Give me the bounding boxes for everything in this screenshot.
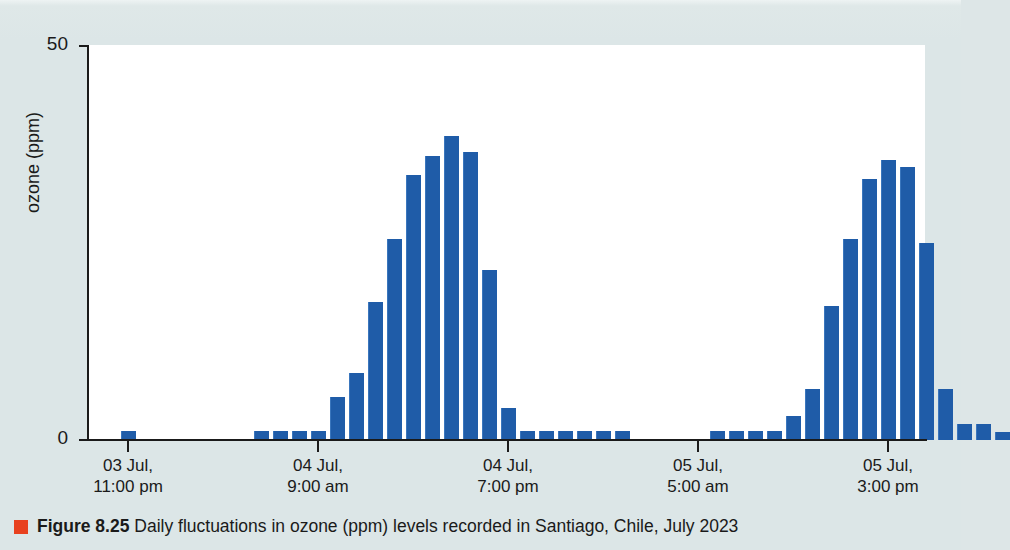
- x-axis-tick-label: 04 Jul,9:00 am: [248, 455, 388, 498]
- y-tick-50: [79, 45, 88, 47]
- bar: [786, 416, 801, 440]
- bar: [919, 243, 934, 441]
- caption-text: Figure 8.25 Daily fluctuations in ozone …: [37, 516, 738, 536]
- x-axis-tick: [127, 441, 129, 452]
- bar: [444, 136, 459, 440]
- bar: [805, 389, 820, 440]
- bar: [976, 424, 991, 440]
- x-axis-tick-label: 05 Jul,5:00 am: [628, 455, 768, 498]
- x-axis-tick-label-time: 3:00 pm: [818, 476, 958, 497]
- x-axis-tick: [887, 441, 889, 452]
- x-axis-tick-label-date: 04 Jul,: [248, 455, 388, 476]
- y-tick-0: [79, 439, 88, 441]
- x-axis-tick-label-date: 04 Jul,: [438, 455, 578, 476]
- bar: [406, 175, 421, 440]
- x-axis-tick-label: 05 Jul,3:00 pm: [818, 455, 958, 498]
- figure-caption: Figure 8.25 Daily fluctuations in ozone …: [14, 516, 954, 536]
- x-axis-tick-label: 03 Jul,11:00 pm: [58, 455, 198, 498]
- x-axis-tick-label-time: 9:00 am: [248, 476, 388, 497]
- x-axis-tick-label-time: 11:00 pm: [58, 476, 198, 497]
- chart-plot-area: [88, 45, 925, 440]
- y-axis-line: [87, 45, 89, 441]
- x-axis-tick-label: 04 Jul,7:00 pm: [438, 455, 578, 498]
- y-tick-label-50: 50: [28, 34, 68, 53]
- bar-series: [88, 45, 925, 440]
- y-axis-title: ozone (ppm): [23, 68, 44, 258]
- x-axis-tick: [317, 441, 319, 452]
- bar: [957, 424, 972, 440]
- caption-marker-icon: [14, 520, 28, 534]
- bar: [463, 152, 478, 440]
- figure-caption-body: Daily fluctuations in ozone (ppm) levels…: [134, 516, 738, 536]
- x-axis-tick: [697, 441, 699, 452]
- bar: [995, 432, 1010, 440]
- bar: [425, 156, 440, 440]
- bar: [330, 397, 345, 440]
- bar: [824, 306, 839, 440]
- bar: [482, 270, 497, 440]
- x-axis-tick-label-date: 05 Jul,: [628, 455, 768, 476]
- x-axis-tick: [507, 441, 509, 452]
- bar: [843, 239, 858, 440]
- x-axis-tick-label-date: 03 Jul,: [58, 455, 198, 476]
- y-tick-label-0: 0: [28, 428, 68, 447]
- bar: [900, 167, 915, 440]
- bar: [938, 389, 953, 440]
- x-axis-tick-label-time: 7:00 pm: [438, 476, 578, 497]
- x-axis-tick-label-date: 05 Jul,: [818, 455, 958, 476]
- bar: [501, 408, 516, 440]
- x-axis-tick-label-time: 5:00 am: [628, 476, 768, 497]
- bar: [862, 179, 877, 440]
- bar: [349, 373, 364, 440]
- bar: [881, 160, 896, 440]
- bar: [387, 239, 402, 440]
- bar: [368, 302, 383, 440]
- figure-label: Figure 8.25: [37, 516, 129, 536]
